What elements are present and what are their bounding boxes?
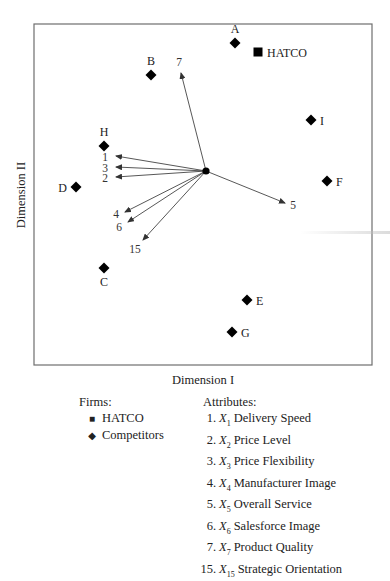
square-icon: ■: [87, 411, 97, 427]
attribute-number: 3.: [196, 453, 216, 475]
firm-label: F: [336, 175, 343, 189]
firm-g: G: [227, 326, 251, 340]
firm-a: A: [230, 22, 241, 49]
firm-label: G: [241, 326, 250, 340]
attribute-label: Overall Service: [234, 496, 312, 518]
legend-item-competitors: ◆Competitors: [79, 427, 164, 444]
firm-e: E: [242, 294, 264, 308]
attribute-number: 15.: [196, 561, 216, 581]
firm-label: I: [320, 114, 324, 128]
attribute-vector-label: 7: [176, 56, 182, 68]
firm-hatco: HATCO: [254, 46, 308, 60]
attribute-label: Salesforce Image: [234, 518, 320, 540]
square-icon: [254, 48, 263, 57]
attribute-vector-label: 15: [129, 243, 141, 255]
legend-attribute-4: 4.X4Manufacturer Image: [196, 475, 342, 497]
attribute-vector-label: 4: [113, 208, 119, 220]
attribute-vector-7: [181, 73, 206, 171]
firm-markers: AHATCOBIHFDCEG: [58, 22, 343, 340]
legend-attribute-6: 6.X6Salesforce Image: [196, 518, 342, 540]
attribute-label: Price Flexibility: [234, 453, 315, 475]
attribute-vector-5: [206, 171, 285, 203]
firm-label: E: [256, 294, 263, 308]
firm-label: B: [147, 54, 155, 68]
diamond-icon: [71, 182, 82, 193]
attribute-label: Strategic Orientation: [238, 561, 342, 581]
attribute-label: Price Level: [234, 432, 291, 454]
firm-label: C: [100, 275, 108, 289]
attribute-variable: X5: [219, 496, 231, 518]
y-axis-label: Dimension II: [14, 162, 28, 228]
attribute-number: 1.: [196, 410, 216, 432]
legend-item-hatco: ■HATCO: [79, 410, 164, 427]
origin-point: [202, 167, 209, 174]
firm-label: A: [231, 22, 240, 36]
attribute-variable: X3: [219, 453, 231, 475]
legend-attribute-1: 1.X1Delivery Speed: [196, 410, 342, 432]
diamond-icon: [99, 141, 110, 152]
scan-artifact: [300, 231, 390, 234]
attribute-number: 6.: [196, 518, 216, 540]
attribute-vector-label: 5: [290, 199, 296, 211]
firm-d: D: [58, 181, 81, 195]
diamond-icon: [242, 295, 253, 306]
attribute-number: 7.: [196, 539, 216, 561]
diamond-icon: [306, 115, 317, 126]
attribute-variable: X1: [219, 410, 231, 432]
attribute-vector-4: [125, 171, 206, 212]
plot-frame: [34, 24, 372, 365]
diamond-icon: [322, 176, 333, 187]
attributes-legend-title: Attributes:: [196, 394, 342, 410]
diamond-icon: [230, 38, 241, 49]
attribute-variable: X6: [219, 518, 231, 540]
x-axis-label: Dimension I: [172, 373, 234, 387]
legend-attribute-2: 2.X2Price Level: [196, 432, 342, 454]
diamond-icon: [227, 327, 238, 338]
firm-label: H: [100, 125, 109, 139]
firm-i: I: [306, 114, 325, 128]
diamond-icon: [146, 70, 157, 81]
attribute-vector-2: [116, 171, 206, 177]
firm-h: H: [99, 125, 110, 152]
legend-label: Competitors: [102, 428, 164, 442]
attribute-label: Product Quality: [234, 539, 314, 561]
attribute-vector-label: 6: [116, 221, 122, 233]
attribute-variable: X4: [219, 475, 231, 497]
legend-attribute-8: 15.X15Strategic Orientation: [196, 561, 342, 581]
legend-attribute-5: 5.X5Overall Service: [196, 496, 342, 518]
legend-label: HATCO: [102, 411, 144, 425]
firm-b: B: [146, 54, 157, 81]
attribute-number: 2.: [196, 432, 216, 454]
legend-attribute-3: 3.X3Price Flexibility: [196, 453, 342, 475]
attribute-variable: X7: [219, 539, 231, 561]
firm-f: F: [322, 175, 344, 189]
attribute-label: Delivery Speed: [234, 410, 311, 432]
attribute-number: 5.: [196, 496, 216, 518]
firms-legend-title: Firms:: [79, 394, 164, 410]
attribute-vectors: 132461575: [102, 56, 296, 255]
diamond-icon: ◆: [87, 428, 97, 444]
diamond-icon: [99, 263, 110, 274]
attributes-list: 1.X1Delivery Speed2.X2Price Level3.X3Pri…: [196, 410, 342, 581]
attribute-variable: X15: [219, 561, 235, 581]
attribute-vector-label: 2: [102, 172, 108, 184]
firm-label: D: [58, 181, 67, 195]
firm-label: HATCO: [267, 46, 307, 60]
attribute-variable: X2: [219, 432, 231, 454]
legend-attribute-7: 7.X7Product Quality: [196, 539, 342, 561]
attribute-label: Manufacturer Image: [234, 475, 336, 497]
firms-legend: Firms: ■HATCO ◆Competitors: [79, 394, 164, 444]
attribute-number: 4.: [196, 475, 216, 497]
attributes-legend: Attributes: 1.X1Delivery Speed2.X2Price …: [196, 394, 342, 581]
firm-c: C: [99, 263, 110, 290]
